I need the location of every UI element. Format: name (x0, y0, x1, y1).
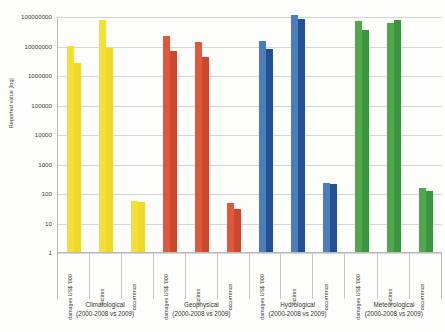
x-axis-measure-cell: victims (90, 253, 122, 299)
measure-1 (282, 17, 314, 252)
bar (266, 49, 273, 252)
group-caption: Geophysical(2000-2008 vs 2009) (153, 300, 249, 330)
x-axis-group: damages US$ '000victimsoccurrence (345, 253, 441, 299)
measure-1 (186, 17, 218, 252)
bar (362, 30, 369, 252)
x-axis-measure-cell: victims (186, 253, 218, 299)
bar-groups (58, 17, 442, 252)
bar-group-meteorological (346, 17, 442, 252)
bar (419, 188, 426, 252)
x-axis-measure-cell: damages US$ '000 (250, 253, 282, 299)
bar (394, 20, 401, 252)
measure-0 (346, 17, 378, 252)
measure-1 (90, 17, 122, 252)
group-caption: Hydrological(2000-2008 vs 2009) (250, 300, 346, 330)
bar (323, 183, 330, 252)
bar (291, 15, 298, 252)
bar (259, 41, 266, 252)
bar (163, 36, 170, 252)
x-axis-group: damages US$ '000victimsoccurrence (154, 253, 250, 299)
measure-1 (378, 17, 410, 252)
group-name: Climatological (57, 300, 153, 309)
bar (170, 51, 177, 252)
group-name: Hydrological (250, 300, 346, 309)
bar (138, 202, 145, 252)
group-name: Meteorological (346, 300, 442, 309)
bar (298, 19, 305, 252)
bar (426, 191, 433, 252)
measure-2 (314, 17, 346, 252)
bar (67, 46, 74, 253)
measure-2 (410, 17, 442, 252)
bar (234, 209, 241, 252)
measure-0 (250, 17, 282, 252)
measure-0 (58, 17, 90, 252)
x-axis-measure-cell: damages US$ '000 (154, 253, 186, 299)
bar (195, 42, 202, 252)
group-period: (2000-2008 vs 2009) (57, 309, 153, 318)
y-axis-tick-label: 1 (0, 249, 52, 256)
bar-group-hydrological (250, 17, 346, 252)
x-axis-measure-cell: occurrence (122, 253, 154, 299)
bar (99, 20, 106, 252)
y-axis-tick-label: 10000 (0, 131, 52, 138)
x-axis-measure-cell: victims (281, 253, 313, 299)
y-axis-tick-label: 100000000 (0, 13, 52, 20)
bar (355, 21, 362, 252)
bar (74, 63, 81, 252)
x-axis-measure-labels: damages US$ '000victimsoccurrencedamages… (57, 253, 442, 299)
bar (131, 201, 138, 252)
bar (202, 57, 209, 252)
y-axis-tick-label: 1000000 (0, 72, 52, 79)
x-axis-measure-cell: occurrence (218, 253, 250, 299)
x-axis-measure-cell: damages US$ '000 (345, 253, 377, 299)
group-period: (2000-2008 vs 2009) (250, 309, 346, 318)
y-axis-tick-label: 1000 (0, 161, 52, 168)
x-axis-measure-cell: victims (378, 253, 410, 299)
x-axis-group: damages US$ '000victimsoccurrence (58, 253, 154, 299)
bar-group-climatological (58, 17, 154, 252)
measure-2 (122, 17, 154, 252)
y-axis-tick-label: 10000000 (0, 43, 52, 50)
x-axis-measure-cell: damages US$ '000 (58, 253, 90, 299)
bar (387, 23, 394, 252)
x-axis-measure-cell: occurrence (313, 253, 345, 299)
plot-area (57, 17, 442, 253)
x-axis-measure-cell: occurrence (410, 253, 441, 299)
measure-0 (154, 17, 186, 252)
chart-container: Reported value [log] 1101001000100001000… (0, 0, 445, 332)
group-caption: Meteorological(2000-2008 vs 2009) (346, 300, 442, 330)
y-axis-tick-label: 100 (0, 190, 52, 197)
group-period: (2000-2008 vs 2009) (153, 309, 249, 318)
y-axis-tick-label: 100000 (0, 102, 52, 109)
group-caption: Climatological(2000-2008 vs 2009) (57, 300, 153, 330)
bar (227, 203, 234, 252)
bar (106, 48, 113, 252)
measure-2 (218, 17, 250, 252)
bar-group-geophysical (154, 17, 250, 252)
group-period: (2000-2008 vs 2009) (346, 309, 442, 318)
y-axis-tick-label: 10 (0, 220, 52, 227)
x-axis-group: damages US$ '000victimsoccurrence (250, 253, 346, 299)
x-axis-group-captions: Climatological(2000-2008 vs 2009)Geophys… (57, 300, 442, 330)
bar (330, 184, 337, 253)
group-name: Geophysical (153, 300, 249, 309)
